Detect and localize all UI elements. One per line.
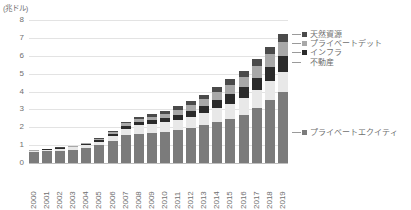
bar-column[interactable] — [55, 20, 65, 163]
legend-item[interactable]: 不動産 — [292, 58, 334, 67]
x-axis-tick-label: 2007 — [121, 165, 131, 209]
y-axis-tick-label: 1 — [2, 141, 24, 149]
bar-segment — [173, 120, 183, 130]
bar-column[interactable] — [81, 20, 91, 163]
bar-column[interactable] — [186, 20, 196, 163]
x-axis-tick-label: 2013 — [199, 165, 209, 209]
x-axis-tick-label: 2004 — [81, 165, 91, 209]
axis-baseline — [29, 163, 288, 164]
bar-segment — [212, 108, 222, 122]
x-axis-tick-label: 2014 — [212, 165, 222, 209]
legend-color-swatch — [302, 32, 307, 37]
bar-column[interactable] — [147, 20, 157, 163]
bar-segment — [252, 78, 262, 90]
legend-color-swatch — [302, 41, 307, 46]
bar-column[interactable] — [94, 20, 104, 163]
x-axis-tick-label: 2008 — [134, 165, 144, 209]
y-axis-tick-label: 3 — [2, 105, 24, 113]
bar-segment — [147, 124, 157, 133]
x-axis-tick-label: 2002 — [55, 165, 65, 209]
x-axis-tick-label: 2015 — [225, 165, 235, 209]
legend-item[interactable]: 天然資源 — [292, 30, 342, 39]
bar-segment — [147, 133, 157, 163]
legend-leader-line — [292, 43, 301, 44]
bar-segment — [225, 85, 235, 94]
bar-column[interactable] — [108, 20, 118, 163]
bar-segment — [173, 130, 183, 163]
bar-column[interactable] — [160, 20, 170, 163]
y-axis-tick-label: 2 — [2, 123, 24, 131]
bar-segment — [278, 72, 288, 92]
bar-segment — [42, 151, 52, 163]
y-axis-tick-label: 7 — [2, 34, 24, 42]
bar-segment — [212, 122, 222, 163]
legend-leader-line — [292, 52, 301, 53]
x-axis-tick-label: 2012 — [186, 165, 196, 209]
bar-column[interactable] — [265, 20, 275, 163]
bar-segment — [252, 66, 262, 78]
bar-segment — [199, 125, 209, 163]
legend-color-swatch — [302, 50, 307, 55]
bar-column[interactable] — [212, 20, 222, 163]
x-axis-tick-label: 2003 — [68, 165, 78, 209]
bar-segment — [252, 59, 262, 66]
bar-segment — [108, 141, 118, 163]
bar-segment — [278, 56, 288, 72]
bar-column[interactable] — [173, 20, 183, 163]
x-axis-tick-label: 2006 — [108, 165, 118, 209]
x-axis-tick-label: 2011 — [173, 165, 183, 209]
bar-segment — [81, 148, 91, 163]
bar-column[interactable] — [199, 20, 209, 163]
bar-segment — [160, 132, 170, 163]
bar-segment — [55, 151, 65, 164]
legend-label: 不動産 — [310, 58, 334, 67]
bar-segment — [239, 87, 249, 98]
y-axis-tick-label: 0 — [2, 159, 24, 167]
bar-column[interactable] — [278, 20, 288, 163]
x-axis-tick-label: 2017 — [252, 165, 262, 209]
bar-column[interactable] — [134, 20, 144, 163]
bar-segment — [29, 152, 39, 163]
bar-segment — [199, 99, 209, 106]
legend-label: 天然資源 — [310, 30, 342, 39]
bar-column[interactable] — [239, 20, 249, 163]
bar-segment — [225, 119, 235, 163]
legend-item[interactable]: プライベートエクイティ — [292, 128, 398, 137]
x-axis-tick-label: 2010 — [160, 165, 170, 209]
legend-label: インフラ — [310, 48, 342, 57]
bar-segment — [121, 129, 131, 136]
bar-column[interactable] — [29, 20, 39, 163]
bar-segment — [199, 106, 209, 113]
bar-column[interactable] — [42, 20, 52, 163]
bar-column[interactable] — [68, 20, 78, 163]
y-axis-tick-label: 5 — [2, 70, 24, 78]
bar-segment — [160, 122, 170, 131]
legend-leader-line — [292, 132, 301, 133]
y-axis-unit-label: (兆ドル) — [3, 2, 28, 13]
x-axis-tick-label: 2005 — [94, 165, 104, 209]
legend-leader-line — [292, 62, 301, 63]
stacked-bar-chart: (兆ドル) 876543210 200020012002200320042005… — [0, 0, 411, 210]
bar-segment — [278, 34, 288, 42]
bar-segment — [252, 90, 262, 108]
x-axis-tick-label: 2009 — [147, 165, 157, 209]
legend-item[interactable]: インフラ — [292, 48, 342, 57]
bar-segment — [265, 54, 275, 67]
legend-item[interactable]: プライベートデット — [292, 39, 382, 48]
bar-column[interactable] — [225, 20, 235, 163]
bar-column[interactable] — [121, 20, 131, 163]
bar-segment — [252, 108, 262, 163]
bar-segment — [265, 100, 275, 163]
bars-container — [29, 20, 288, 163]
legend-color-swatch — [302, 60, 307, 65]
y-axis-tick-label: 6 — [2, 52, 24, 60]
bar-column[interactable] — [252, 20, 262, 163]
bar-segment — [225, 104, 235, 120]
bar-segment — [265, 67, 275, 81]
legend-leader-line — [292, 34, 301, 35]
bar-segment — [134, 125, 144, 133]
bar-segment — [278, 42, 288, 56]
bar-segment — [212, 92, 222, 100]
x-axis-tick-label: 2001 — [42, 165, 52, 209]
x-axis-tick-label: 2016 — [239, 165, 249, 209]
